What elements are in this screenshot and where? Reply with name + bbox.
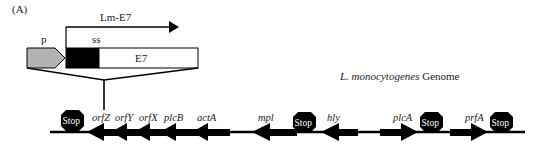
gene-arrow-orfY-icon xyxy=(111,123,127,141)
gene-label-hly: hly xyxy=(327,112,340,123)
stop-sign-1: Stop xyxy=(61,110,84,131)
stop-label: Stop xyxy=(295,118,313,128)
genome-title: L. monocytogenes Genome xyxy=(339,70,460,82)
construct: Lm-E7 p ss E7 xyxy=(27,11,198,110)
stop-label: Stop xyxy=(63,116,81,126)
panel-label: (A) xyxy=(12,3,28,16)
gene-label-plcA: plcA xyxy=(392,112,413,123)
gene-arrow-prfA-icon xyxy=(471,123,488,141)
gene-arrow-hly-icon xyxy=(321,123,339,141)
genome-title-suffix: Genome xyxy=(419,70,459,82)
insertion-bracket xyxy=(27,68,198,80)
gene-label-orfX: orfX xyxy=(139,112,158,123)
genome-map: orfZ orfY orfX plcB actA mpl hly plcA pr… xyxy=(50,110,525,141)
stop-label: Stop xyxy=(492,118,510,128)
gene-label-mpl: mpl xyxy=(258,112,274,123)
stop-sign-3: Stop xyxy=(420,112,443,132)
stop-sign-4: Stop xyxy=(490,112,513,132)
gene-arrow-orfZ-icon xyxy=(87,123,104,141)
genome-title-species: L. monocytogenes xyxy=(339,70,419,82)
promoter-label: p xyxy=(41,33,47,45)
gene-label-orfY: orfY xyxy=(115,112,134,123)
signal-sequence-label: ss xyxy=(92,33,101,45)
gene-label-actA: actA xyxy=(197,112,217,123)
gene-arrow-plcB-icon xyxy=(160,123,176,141)
gene-label-prfA: prfA xyxy=(464,112,484,123)
promoter-shape xyxy=(27,48,65,68)
gene-arrow-actA-icon xyxy=(192,123,208,141)
gene-label-orfZ: orfZ xyxy=(92,112,110,123)
transcript-arrowhead-icon xyxy=(169,21,179,33)
e7-insert-box xyxy=(99,48,198,68)
gene-arrow-orfX-icon xyxy=(134,123,150,141)
stop-label: Stop xyxy=(422,118,440,128)
diagram-canvas: (A) Lm-E7 p ss E7 L. monocytogenes Genom… xyxy=(0,0,548,161)
gene-arrow-mpl-icon xyxy=(252,123,270,141)
gene-label-plcB: plcB xyxy=(163,112,184,123)
e7-insert-label: E7 xyxy=(135,52,148,64)
gene-arrow-plcA-icon xyxy=(401,123,418,141)
stop-sign-2: Stop xyxy=(293,112,316,132)
transcript-label: Lm-E7 xyxy=(100,11,132,23)
signal-sequence-box xyxy=(66,48,99,68)
